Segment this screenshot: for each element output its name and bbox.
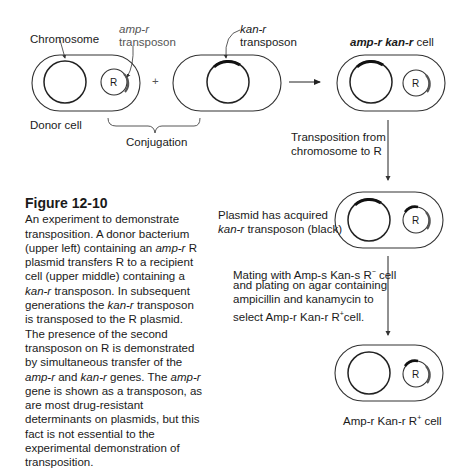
caption-segment: amp-r: [155, 242, 185, 254]
label-amp-r-bold: amp-r: [350, 36, 382, 48]
final-text: Amp-r Kan-r R: [343, 415, 417, 427]
label-R-final: R: [412, 368, 419, 381]
mating-text-4: select Amp-r Kan-r R: [233, 311, 340, 323]
label-conjugation: Conjugation: [126, 136, 187, 149]
label-R-acquired: R: [412, 214, 419, 227]
label-amp-transposon: transposon: [119, 36, 176, 49]
caption-segment: genes. The: [107, 371, 171, 383]
caption-segment: kan-r: [25, 285, 51, 297]
label-kan-transposon: transposon: [240, 36, 297, 49]
label-acquired-2: kan-r transposon (black): [218, 223, 342, 236]
label-mating-3: ampicillin and kanamycin to: [233, 293, 374, 306]
caption-body: An experiment to demonstrate transpositi…: [25, 213, 202, 468]
caption-segment: kan-r: [81, 371, 107, 383]
figure-title: Figure 12-10: [25, 196, 205, 210]
conjugation-brace: [108, 118, 200, 133]
label-donor-cell: Donor cell: [30, 119, 82, 132]
donor-cell: [32, 40, 140, 111]
acquired-cell: [335, 192, 443, 248]
label-R-donor: R: [110, 76, 117, 89]
label-kan-r: kan-r: [240, 23, 266, 36]
label-kan-r-bold: kan-r: [385, 36, 413, 48]
label-transposition-1: Transposition from: [291, 131, 386, 144]
caption-segment: and: [55, 371, 81, 383]
caption-segment: amp-r: [171, 371, 201, 383]
label-acquired-kan: kan-r: [218, 223, 244, 235]
label-acquired-1: Plasmid has acquired: [218, 209, 328, 222]
mating-text-4-end: cell.: [344, 311, 364, 323]
caption-segment: amp-r: [25, 371, 55, 383]
label-cell: cell: [416, 36, 433, 48]
label-mating-4: select Amp-r Kan-r R+cell.: [233, 307, 364, 324]
label-amp-kan-cell: amp-r kan-r cell: [350, 36, 434, 49]
label-mating-2: and plating on agar containing: [233, 279, 387, 292]
caption-segment: kan-r: [107, 299, 133, 311]
figure-caption: Figure 12-10 An experiment to demonstrat…: [25, 196, 205, 470]
label-final-cell: Amp-r Kan-r R+ cell: [343, 411, 442, 428]
plus-sign: +: [152, 75, 159, 88]
label-amp-r: amp-r: [119, 23, 149, 36]
label-transposition-2: chromosome to R: [291, 145, 382, 158]
label-R-result: R: [412, 77, 419, 90]
final-text-end: cell: [421, 415, 441, 427]
caption-segment: gene is shown as a transposon, as are mo…: [25, 385, 202, 468]
label-acquired-rest: transposon (black): [244, 223, 342, 235]
label-chromosome: Chromosome: [30, 33, 99, 46]
amp-kan-cell: [337, 55, 445, 111]
final-cell: [335, 345, 443, 401]
